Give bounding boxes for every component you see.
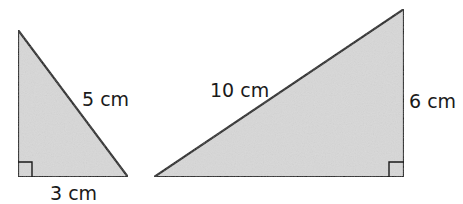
- right-triangles-diagram: 5 cm 3 cm 10 cm 6 cm: [0, 0, 463, 204]
- left-hypotenuse-label: 5 cm: [82, 88, 129, 110]
- right-height-label: 6 cm: [409, 90, 456, 112]
- right-triangle-shape: [154, 9, 404, 177]
- right-triangle: 10 cm 6 cm: [154, 9, 456, 177]
- left-base-label: 3 cm: [50, 182, 97, 204]
- left-triangle: 5 cm 3 cm: [18, 30, 129, 204]
- right-hypotenuse-label: 10 cm: [210, 79, 269, 101]
